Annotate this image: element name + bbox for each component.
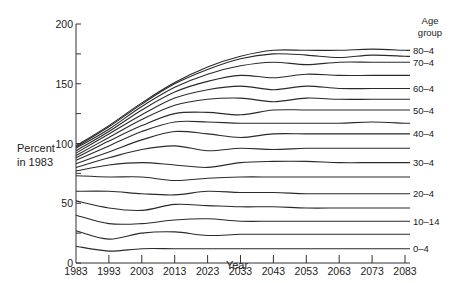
x-tick-label: 2073 xyxy=(360,265,384,277)
series-line-35-9 xyxy=(76,146,410,168)
series-line-10-14 xyxy=(76,215,410,224)
x-tick-label: 2013 xyxy=(163,265,187,277)
series-lines xyxy=(76,49,410,251)
x-tick-label: 2043 xyxy=(262,265,286,277)
x-tick-label: 2003 xyxy=(130,265,154,277)
series-label-80-4: 80–4 xyxy=(413,45,434,56)
series-label-0-4: 0–4 xyxy=(413,243,429,254)
series-line-65-9 xyxy=(76,74,410,151)
series-label-50-4: 50–4 xyxy=(413,105,434,116)
series-line-5-9 xyxy=(76,231,410,239)
legend-title-line-1: Age xyxy=(422,15,439,26)
series-label-40-4: 40–4 xyxy=(413,128,434,139)
y-axis-title-line-2: in 1983 xyxy=(17,156,53,168)
series-line-20-4 xyxy=(76,191,410,195)
series-line-55-9 xyxy=(76,98,410,155)
x-tick-label: 1993 xyxy=(97,265,121,277)
y-tick-label: 150 xyxy=(55,78,73,90)
x-tick-label: 1983 xyxy=(64,265,88,277)
y-tick-label: 100 xyxy=(55,138,73,150)
y-tick-label: 50 xyxy=(61,197,73,209)
series-line-25-9 xyxy=(76,176,410,181)
series-label-70-4: 70–4 xyxy=(413,57,434,68)
y-axis-title-line-1: Percent xyxy=(17,142,55,154)
series-label-30-4: 30–4 xyxy=(413,157,434,168)
x-tick-label: 2063 xyxy=(328,265,352,277)
x-tick-label: 2053 xyxy=(295,265,319,277)
line-chart: 050100150200 198319932003201320232033204… xyxy=(0,0,459,283)
x-tick-label: 2023 xyxy=(196,265,220,277)
series-labels: 0–410–1420–430–440–450–460–470–480–4 xyxy=(413,45,439,254)
x-axis-title: Year xyxy=(226,259,249,271)
series-line-0-4 xyxy=(76,246,410,251)
series-line-80-4 xyxy=(76,49,410,146)
x-tick-label: 2083 xyxy=(393,265,417,277)
series-label-20-4: 20–4 xyxy=(413,188,434,199)
series-line-40-4 xyxy=(76,131,410,164)
series-line-45-9 xyxy=(76,121,410,160)
series-label-60-4: 60–4 xyxy=(413,83,434,94)
y-tick-label: 200 xyxy=(55,18,73,30)
legend-title-line-2: group xyxy=(418,27,442,38)
series-line-15-19 xyxy=(76,201,410,211)
series-line-30-4 xyxy=(76,161,410,171)
series-label-10-14: 10–14 xyxy=(413,216,439,227)
